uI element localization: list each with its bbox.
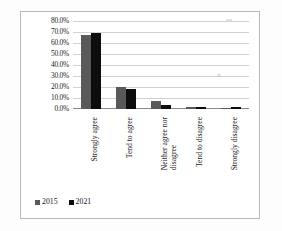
x-axis-category-label-line: Tend to agree <box>125 117 134 158</box>
chart-legend: 20152021 <box>35 198 91 206</box>
y-axis-tick-label: 40.0% <box>51 61 69 68</box>
y-axis-tick-label: 70.0% <box>51 28 69 35</box>
bar-2021[interactable] <box>91 33 101 109</box>
bar-2021[interactable] <box>126 89 136 109</box>
x-axis-category-label-line: Neither agree nor <box>160 117 169 170</box>
bar-chart: 0.0%10.0%20.0%30.0%40.0%50.0%60.0%70.0%8… <box>21 12 261 220</box>
bar-group <box>143 21 178 109</box>
scan-artifact <box>226 19 232 21</box>
chart-frame: 0.0%10.0%20.0%30.0%40.0%50.0%60.0%70.0%8… <box>20 11 260 219</box>
bar-2015[interactable] <box>221 108 231 109</box>
legend-label: 2015 <box>42 198 58 206</box>
scan-artifact <box>217 74 221 77</box>
bar-2021[interactable] <box>196 107 206 109</box>
plot-region: 0.0%10.0%20.0%30.0%40.0%50.0%60.0%70.0%8… <box>33 21 249 116</box>
x-axis-category-label-line: Strongly disagree <box>230 117 239 170</box>
bar-2021[interactable] <box>231 107 241 109</box>
legend-label: 2021 <box>76 198 92 206</box>
y-axis-tick-label: 20.0% <box>51 83 69 90</box>
bar-groups <box>73 21 249 109</box>
plot-area <box>73 21 249 109</box>
x-axis-category-cell: Strongly agree <box>73 117 108 195</box>
x-axis-category-cell: Strongly disagree <box>214 117 249 195</box>
legend-swatch-icon <box>35 200 40 205</box>
bar-2021[interactable] <box>161 105 171 109</box>
x-axis-category-labels: Strongly agreeTend to agreeNeither agree… <box>73 117 249 195</box>
bar-group <box>214 21 249 109</box>
x-axis-category-label: Tend to disagree <box>196 117 205 167</box>
x-axis-category-label: Strongly disagree <box>231 117 240 170</box>
y-axis: 0.0%10.0%20.0%30.0%40.0%50.0%60.0%70.0%8… <box>33 21 71 116</box>
bar-2015[interactable] <box>151 101 161 109</box>
screenshot-root: 0.0%10.0%20.0%30.0%40.0%50.0%60.0%70.0%8… <box>0 0 282 231</box>
x-axis-category-cell: Neither agree nordisagree <box>143 117 178 195</box>
x-axis-category-label: Neither agree nordisagree <box>161 117 178 170</box>
x-axis-category-cell: Tend to agree <box>108 117 143 195</box>
y-axis-tick-label: 50.0% <box>51 50 69 57</box>
y-axis-tick-label: 60.0% <box>51 39 69 46</box>
legend-item-2015[interactable]: 2015 <box>35 198 58 206</box>
bar-2015[interactable] <box>81 35 91 109</box>
y-axis-tick-label: 30.0% <box>51 72 69 79</box>
y-axis-tick-label: 0.0% <box>54 105 69 112</box>
x-axis-category-cell: Tend to disagree <box>179 117 214 195</box>
bar-group <box>73 21 108 109</box>
legend-item-2021[interactable]: 2021 <box>69 198 92 206</box>
bar-group <box>108 21 143 109</box>
y-axis-tick-label: 10.0% <box>51 94 69 101</box>
x-axis-category-label: Strongly agree <box>91 117 100 162</box>
y-axis-tick-label: 80.0% <box>51 17 69 24</box>
x-axis-category-label-line: Strongly agree <box>90 117 99 162</box>
x-axis-category-label-line: Tend to disagree <box>195 117 204 167</box>
bar-group <box>179 21 214 109</box>
bar-2015[interactable] <box>116 87 126 109</box>
legend-swatch-icon <box>69 200 74 205</box>
x-axis-category-label: Tend to agree <box>126 117 135 158</box>
x-axis-category-label-line: disagree <box>170 117 179 170</box>
bar-2015[interactable] <box>186 107 196 109</box>
